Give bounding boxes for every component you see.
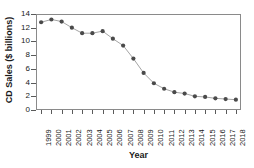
x-tick-label: 2018 <box>239 116 247 146</box>
x-tick-mark <box>185 110 186 114</box>
y-tick-mark <box>31 110 36 111</box>
y-tick-label: 4 <box>6 79 30 87</box>
x-tick-mark <box>174 110 175 114</box>
chart-figure: CD Sales ($ billions) 02468101214 199920… <box>0 0 254 168</box>
x-tick-mark <box>164 110 165 114</box>
x-tick-label: 2012 <box>178 116 186 146</box>
x-tick-label: 2001 <box>65 116 73 146</box>
x-tick-label: 2015 <box>209 116 217 146</box>
x-tick-mark <box>103 110 104 114</box>
x-tick-label: 2009 <box>147 116 155 146</box>
data-point <box>203 95 207 99</box>
data-point <box>162 87 166 91</box>
x-tick-label: 2011 <box>168 116 176 146</box>
y-tick-label: 14 <box>6 10 30 18</box>
x-tick-mark <box>236 110 237 114</box>
data-point <box>213 96 217 100</box>
data-point <box>80 31 84 35</box>
data-point <box>60 19 64 23</box>
y-tick-label: 8 <box>6 51 30 59</box>
y-tick-label: 2 <box>6 92 30 100</box>
x-tick-mark <box>205 110 206 114</box>
x-tick-label: 2014 <box>198 116 206 146</box>
x-tick-label: 2016 <box>219 116 227 146</box>
x-tick-label: 2002 <box>75 116 83 146</box>
x-tick-label: 2000 <box>55 116 63 146</box>
x-tick-label: 2004 <box>96 116 104 146</box>
data-point <box>90 31 94 35</box>
y-tick-label: 10 <box>6 37 30 45</box>
data-point <box>193 94 197 98</box>
data-point <box>101 29 105 33</box>
y-tick-label: 6 <box>6 65 30 73</box>
data-series-cd-sales <box>36 14 241 110</box>
x-axis-title: Year <box>36 150 241 160</box>
y-tick-label: 0 <box>6 106 30 114</box>
data-point <box>131 56 135 60</box>
data-point <box>70 26 74 30</box>
x-tick-mark <box>113 110 114 114</box>
data-point <box>152 81 156 85</box>
data-point <box>39 20 43 24</box>
x-tick-mark <box>82 110 83 114</box>
x-tick-label: 1999 <box>45 116 53 146</box>
x-tick-mark <box>133 110 134 114</box>
x-tick-label: 2008 <box>137 116 145 146</box>
x-tick-label: 2017 <box>229 116 237 146</box>
x-tick-mark <box>226 110 227 114</box>
x-tick-label: 2006 <box>116 116 124 146</box>
data-point <box>224 97 228 101</box>
x-tick-mark <box>62 110 63 114</box>
data-point <box>183 91 187 95</box>
x-tick-label: 2010 <box>157 116 165 146</box>
series-line <box>41 19 236 99</box>
x-tick-mark <box>195 110 196 114</box>
x-tick-mark <box>41 110 42 114</box>
x-tick-mark <box>51 110 52 114</box>
data-point <box>142 71 146 75</box>
x-tick-label: 2007 <box>127 116 135 146</box>
x-tick-mark <box>92 110 93 114</box>
data-point <box>172 90 176 94</box>
x-tick-mark <box>154 110 155 114</box>
x-tick-mark <box>72 110 73 114</box>
x-tick-mark <box>215 110 216 114</box>
data-point <box>234 98 238 102</box>
x-tick-label: 2003 <box>86 116 94 146</box>
y-axis-title: CD Sales ($ billions) <box>0 0 18 120</box>
x-tick-label: 2005 <box>106 116 114 146</box>
data-point <box>111 37 115 41</box>
y-tick-label: 12 <box>6 24 30 32</box>
data-point <box>49 17 53 21</box>
x-tick-mark <box>123 110 124 114</box>
data-point <box>121 43 125 47</box>
x-tick-label: 2013 <box>188 116 196 146</box>
x-tick-mark <box>144 110 145 114</box>
